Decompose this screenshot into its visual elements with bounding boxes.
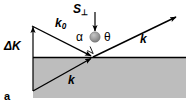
figure-canvas: [0, 0, 186, 106]
s-perp-symbol: S: [73, 2, 81, 16]
delta-k-label: ΔK: [4, 40, 21, 52]
k-in-plane-label: k: [68, 74, 75, 86]
s-perp-label: S⊥: [73, 3, 88, 16]
k-outgoing-label: k: [140, 33, 147, 45]
right-angle-marker-icon: [87, 47, 93, 54]
alpha-angle-label: α: [76, 31, 83, 43]
panel-label: a: [4, 91, 10, 102]
k0-symbol: k: [55, 16, 62, 30]
scattering-geometry-figure: ΔK k0 S⊥ α θ k k a: [0, 0, 186, 106]
atom-sphere-icon: [90, 32, 100, 42]
k0-subscript: 0: [62, 22, 67, 31]
k0-label: k0: [55, 17, 66, 31]
theta-angle-label: θ: [104, 31, 111, 43]
s-perp-subscript: ⊥: [81, 7, 88, 17]
